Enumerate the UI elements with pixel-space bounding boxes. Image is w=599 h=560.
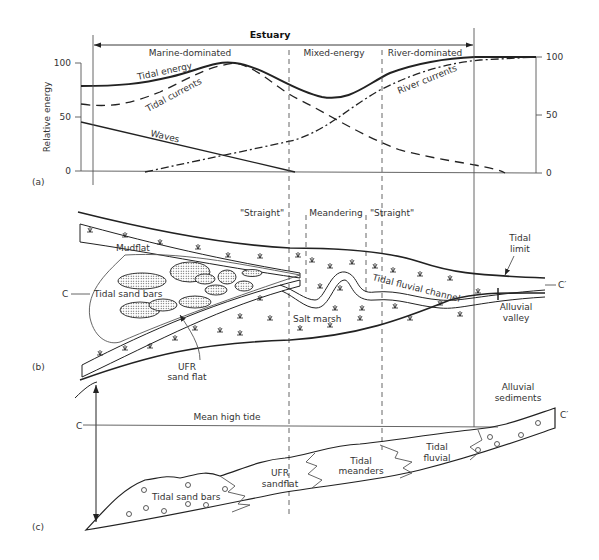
right-tick-50: 50 [546, 110, 558, 120]
marsh-grass-symbol [295, 252, 301, 257]
marsh-grass-symbol [349, 259, 355, 264]
valley-profile-arc [75, 382, 97, 398]
left-tick-0: 0 [65, 166, 71, 176]
panel-c-cross-section: C Mean high tide Tidal sand bars UFR san… [32, 382, 568, 532]
section-c-prime-label-c: C′ [560, 410, 568, 420]
marsh-grass-symbol [237, 330, 243, 335]
marsh-grass-symbol [357, 315, 363, 320]
marsh-grass-symbol [217, 327, 223, 332]
mudflat-label: Mudflat [116, 243, 150, 253]
marsh-grass-symbol [309, 257, 315, 262]
marsh-grass-symbol [97, 350, 103, 355]
panel-a-label: (a) [32, 177, 45, 187]
tidal-limit-label-2: limit [510, 244, 530, 254]
zone-meandering: Meandering [309, 208, 362, 218]
marsh-grass-symbol [122, 345, 128, 350]
alluvial-valley-label-1: Alluvial [500, 302, 533, 312]
waves-curve [81, 122, 295, 172]
marsh-grass-symbol [237, 313, 243, 318]
salt-marsh-label: Salt marsh [293, 314, 342, 324]
alluvial-valley-label-2: valley [503, 313, 530, 323]
zone-marine-dominated: Marine-dominated [149, 48, 231, 58]
panel-b-label: (b) [32, 362, 45, 372]
marsh-grass-symbol [157, 239, 163, 244]
tidal-fluvial-label-1: Tidal [425, 442, 447, 452]
marsh-grass-symbol [267, 315, 273, 320]
ufr-sand-flat-label-1: UFR [178, 362, 196, 372]
tidal-sand-bars-label-c: Tidal sand bars [151, 492, 221, 502]
section-c-label: C [62, 289, 68, 299]
panel-b-plan-view: "Straight" Meandering "Straight" [32, 208, 566, 382]
marsh-grass-symbol [359, 305, 365, 310]
marsh-grass-symbol [317, 283, 323, 288]
zone-mixed-energy: Mixed-energy [303, 48, 365, 58]
alluvial-sediments-label-1: Alluvial [502, 382, 535, 392]
zone-river-dominated: River-dominated [388, 48, 462, 58]
marsh-grass-symbol [297, 325, 303, 330]
tidal-fluvial-channel-label: Tidal fluvial channel [371, 272, 462, 304]
marsh-grass-symbol [87, 227, 93, 232]
estuary-diagram: Estuary Marine-dominated Mixed-energy Ri… [0, 0, 599, 560]
marsh-grass-symbol [225, 252, 231, 257]
ufr-sandflat-label-2: sandflat [262, 479, 299, 489]
tidal-fluvial-label-2: fluvial [423, 453, 450, 463]
marsh-grass-symbol [392, 303, 398, 308]
tidal-sand-bars-label: Tidal sand bars [93, 289, 163, 299]
left-tick-50: 50 [60, 112, 72, 122]
marsh-grass-symbol [257, 253, 263, 258]
right-tick-0: 0 [546, 168, 552, 178]
marsh-grass-symbol [475, 288, 481, 293]
tidal-limit-label-1: Tidal [508, 233, 530, 243]
marsh-grass-symbol [172, 335, 178, 340]
marsh-grass-symbol [192, 325, 198, 330]
panel-c-label: (c) [32, 522, 44, 532]
marsh-grass-symbol [372, 263, 378, 268]
marsh-grass-symbol [447, 275, 453, 280]
y-axis-label: Relative energy [42, 81, 52, 152]
ufr-sandflat-label-1: UFR [271, 468, 289, 478]
zone-straight-left: "Straight" [240, 208, 284, 218]
marsh-grass-symbol [332, 305, 338, 310]
section-c-label-c: C [76, 421, 82, 431]
marsh-grass-symbol [195, 244, 201, 249]
panel-a-energy-chart: Estuary Marine-dominated Mixed-energy Ri… [32, 29, 563, 187]
river-currents-curve [145, 57, 536, 172]
estuary-header: Estuary [250, 29, 292, 40]
ufr-sand-flat-label-2: sand flat [167, 372, 207, 382]
zone-straight-right: "Straight" [370, 208, 414, 218]
mean-high-tide-label: Mean high tide [193, 412, 261, 422]
marsh-grass-symbol [337, 285, 343, 290]
marsh-grass-symbol [457, 311, 463, 316]
tidal-meanders-label-1: Tidal [349, 456, 371, 466]
right-tick-100: 100 [546, 52, 563, 62]
section-c-prime-label: C′ [558, 280, 566, 290]
marsh-grass-symbol [390, 267, 396, 272]
tidal-meanders-label-2: meanders [338, 466, 383, 476]
gravel-clasts [127, 421, 541, 517]
mean-high-tide-line [83, 425, 498, 427]
marsh-grass-symbol [327, 263, 333, 268]
marsh-grass-symbol [417, 271, 423, 276]
left-tick-100: 100 [54, 58, 71, 68]
alluvial-sediments-label-2: sediments [495, 393, 542, 403]
